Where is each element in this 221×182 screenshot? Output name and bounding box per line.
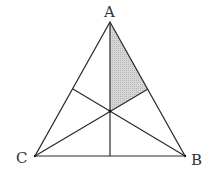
- vertex-c-point: [34, 155, 36, 157]
- centroid-point: [108, 109, 111, 112]
- triangle-medians-diagram: A C B: [0, 0, 221, 182]
- vertex-label-b: B: [191, 151, 202, 169]
- vertex-label-c: C: [16, 149, 27, 167]
- vertex-b-point: [184, 155, 186, 157]
- shaded-triangle: [110, 22, 148, 111]
- median-from-c: [35, 89, 148, 156]
- vertex-label-a: A: [103, 3, 115, 21]
